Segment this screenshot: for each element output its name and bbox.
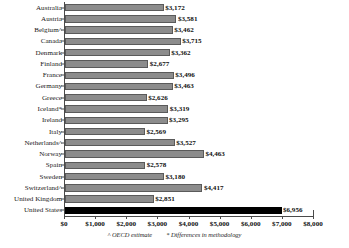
bar-value-label: $3,295: [169, 116, 189, 124]
bar: [65, 83, 173, 90]
bar-row: United States$6,956: [0, 205, 349, 216]
x-axis-tick-label: $6,000: [241, 220, 261, 229]
category-label: Belgium^: [34, 26, 62, 34]
bar-row: Finland$2,677: [0, 58, 349, 69]
category-label: Canada: [41, 37, 62, 45]
category-label: United Kingdom: [14, 195, 62, 203]
bar-row: Ireland$3,295: [0, 115, 349, 126]
bar-value-label: $3,462: [174, 26, 194, 34]
bar-row: Australia$3,172: [0, 2, 349, 13]
bar-value-label: $2,626: [148, 94, 168, 102]
bar-row: Netherlands^$3,527: [0, 137, 349, 148]
x-axis-tick-label: $2,000: [116, 220, 136, 229]
bar: [65, 139, 175, 146]
x-axis-tick-label: $7,000: [272, 220, 292, 229]
bar: [65, 207, 282, 214]
category-label: United States: [24, 206, 62, 214]
bar-chart: Australia$3,172Austria$3,581Belgium^$3,4…: [0, 0, 349, 248]
bar: [65, 162, 145, 169]
y-axis-tick: [61, 86, 64, 87]
bar-row: Canada$3,715: [0, 36, 349, 47]
bar-rows: Australia$3,172Austria$3,581Belgium^$3,4…: [0, 2, 349, 216]
category-label: Spain: [46, 161, 62, 169]
bar-row: Austria$3,581: [0, 13, 349, 24]
bar-row: Iceland*$3,319: [0, 103, 349, 114]
x-axis-tick-label: $8,000: [303, 220, 323, 229]
x-axis-tick-label: $0: [60, 220, 67, 229]
x-axis-tick: [220, 216, 221, 219]
y-axis-tick: [61, 154, 64, 155]
category-label: Denmark: [36, 49, 62, 57]
y-axis-tick: [61, 142, 64, 143]
category-label: France: [43, 71, 62, 79]
bar-value-label: $3,172: [165, 4, 185, 12]
bar-value-label: $3,581: [178, 15, 198, 23]
x-axis-tick: [282, 216, 283, 219]
y-axis-tick: [61, 63, 64, 64]
bar-value-label: $2,578: [147, 161, 167, 169]
bar-row: Germany$3,463: [0, 81, 349, 92]
y-axis-tick: [61, 7, 64, 8]
x-axis-tick-label: $3,000: [148, 220, 168, 229]
x-axis-tick: [189, 216, 190, 219]
x-axis-tick: [95, 216, 96, 219]
y-axis-tick: [61, 18, 64, 19]
y-axis-tick: [61, 41, 64, 42]
bar-row: Greece$2,626: [0, 92, 349, 103]
y-axis-tick: [61, 165, 64, 166]
bar: [65, 72, 174, 79]
bar: [65, 150, 204, 157]
bar: [65, 49, 170, 56]
y-axis-tick: [61, 176, 64, 177]
bar: [65, 184, 202, 191]
category-label: Greece: [42, 94, 62, 102]
y-axis-tick: [61, 210, 64, 211]
bar-value-label: $4,417: [204, 184, 224, 192]
category-label: Germany: [36, 82, 62, 90]
bar-value-label: $2,851: [155, 195, 175, 203]
y-axis-tick: [61, 120, 64, 121]
bar-value-label: $3,527: [176, 139, 196, 147]
bar: [65, 38, 181, 45]
bar-row: Belgium^$3,462: [0, 25, 349, 36]
x-axis-tick-label: $1,000: [85, 220, 105, 229]
category-label: Iceland*: [38, 105, 62, 113]
y-axis-tick: [61, 131, 64, 132]
bar-value-label: $2,677: [150, 60, 170, 68]
bar-row: Sweden$3,180: [0, 171, 349, 182]
y-axis-tick: [61, 30, 64, 31]
bar: [65, 60, 148, 67]
y-axis-tick: [61, 75, 64, 76]
bar-row: Italy$2,569: [0, 126, 349, 137]
y-axis-tick: [61, 97, 64, 98]
bar-value-label: $3,496: [175, 71, 195, 79]
category-label: Ireland: [42, 116, 62, 124]
footnote: ^ OECD estimate: [108, 231, 153, 238]
bar-row: France$3,496: [0, 70, 349, 81]
bar-row: Denmark$3,362: [0, 47, 349, 58]
x-axis-tick: [157, 216, 158, 219]
bar: [65, 173, 164, 180]
bar-value-label: $3,463: [174, 82, 194, 90]
bar: [65, 94, 147, 101]
bar-row: Switzerland^$4,417: [0, 182, 349, 193]
bar: [65, 195, 154, 202]
bar-value-label: $3,715: [182, 37, 202, 45]
bar-row: United Kingdom$2,851: [0, 193, 349, 204]
bar: [65, 117, 168, 124]
bar: [65, 26, 173, 33]
category-label: Switzerland^: [25, 184, 62, 192]
bar-value-label: $3,180: [165, 173, 185, 181]
bar: [65, 105, 168, 112]
x-axis-tick: [313, 216, 314, 219]
y-axis-tick: [61, 108, 64, 109]
bar: [65, 4, 164, 11]
category-label: Australia: [36, 4, 62, 12]
category-label: Sweden: [40, 173, 62, 181]
x-axis-tick: [126, 216, 127, 219]
bar-value-label: $2,569: [146, 128, 166, 136]
category-label: Norway: [39, 150, 62, 158]
category-label: Netherlands^: [24, 139, 62, 147]
chart-footnotes: ^ OECD estimate* Differences in methodol…: [0, 231, 349, 238]
bar: [65, 15, 176, 22]
